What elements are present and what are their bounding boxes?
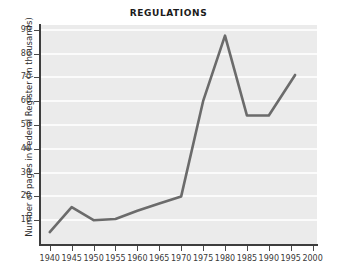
y-tick-mark <box>34 101 39 102</box>
x-tick-mark <box>137 246 138 251</box>
y-tick-label: 10 <box>5 215 31 224</box>
y-tick-mark <box>34 220 39 221</box>
x-tick-mark <box>115 246 116 251</box>
y-tick-mark <box>34 30 39 31</box>
y-axis-line <box>39 24 41 245</box>
chart-figure: REGULATIONS Number of pages in Federal R… <box>0 0 337 273</box>
x-tick-mark <box>313 246 314 251</box>
y-tick-mark <box>34 54 39 55</box>
y-tick-label: 50 <box>5 120 31 129</box>
x-tick-mark <box>291 246 292 251</box>
y-tick-mark <box>34 149 39 150</box>
x-tick-mark <box>159 246 160 251</box>
y-tick-label: 60 <box>5 96 31 105</box>
x-tick-mark <box>247 246 248 251</box>
x-tick-mark <box>72 246 73 251</box>
chart-title: REGULATIONS <box>0 8 337 18</box>
x-tick-label: 2000 <box>298 254 328 263</box>
x-tick-mark <box>225 246 226 251</box>
y-tick-mark <box>34 173 39 174</box>
plot-area <box>41 25 317 244</box>
x-tick-mark <box>269 246 270 251</box>
y-tick-label: 40 <box>5 144 31 153</box>
x-tick-mark <box>94 246 95 251</box>
y-tick-label: 20 <box>5 191 31 200</box>
x-tick-mark <box>181 246 182 251</box>
y-tick-mark <box>34 77 39 78</box>
x-axis-line <box>39 244 318 246</box>
x-tick-mark <box>50 246 51 251</box>
x-tick-mark <box>203 246 204 251</box>
y-tick-label: 30 <box>5 168 31 177</box>
y-tick-label: 70 <box>5 72 31 81</box>
y-tick-mark <box>34 125 39 126</box>
y-tick-label: 80 <box>5 49 31 58</box>
data-series-line <box>41 25 317 244</box>
y-tick-mark <box>34 196 39 197</box>
y-tick-label: 90 <box>5 25 31 34</box>
